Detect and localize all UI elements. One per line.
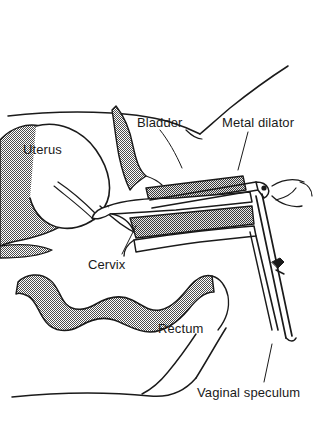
diagram-canvas: [0, 0, 315, 423]
label-vaginal-speculum: Vaginal speculum: [197, 386, 300, 399]
speculum-hinge-pivot: [261, 185, 266, 190]
label-uterus: Uterus: [23, 143, 62, 156]
label-rectum: Rectum: [158, 322, 203, 335]
label-bladder: Bladder: [137, 116, 183, 129]
anatomical-diagram: Uterus Bladder Metal dilator Cervix Rect…: [0, 0, 315, 423]
label-metal-dilator: Metal dilator: [222, 116, 294, 129]
label-cervix: Cervix: [88, 258, 125, 271]
